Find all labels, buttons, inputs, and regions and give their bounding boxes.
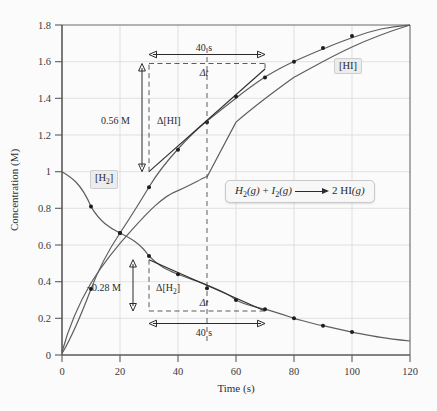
- series-label-hi-text: [HI]: [339, 60, 357, 71]
- y-tick-label: 1.4: [38, 93, 52, 104]
- annotation-hi-delta-time-symbol: Δt: [199, 67, 209, 78]
- annotation-hi-delta-label: Δ[HI]: [157, 115, 181, 126]
- series-label-h2: [H2]: [90, 170, 118, 189]
- series-label-hi: [HI]: [334, 58, 362, 74]
- annotation-h2-delta-time-symbol: Δt: [199, 297, 209, 308]
- series-points-HI: [89, 34, 354, 291]
- reaction-equation-box: H2(g) + I2(g)2 HI(g): [225, 180, 375, 203]
- annotation-h2-delta-label: Δ[H2]: [156, 282, 180, 296]
- y-tick-label: 0.8: [38, 203, 51, 214]
- chart-canvas: 1.8 1.6 1.4 1.2 1 0.8 0.6 0.4 0.2 0 0 20…: [0, 0, 437, 411]
- x-tick-label: 60: [231, 366, 242, 377]
- y-tick-marks: [55, 25, 62, 355]
- eq-plus: +: [263, 184, 269, 196]
- y-tick-label: 1.2: [38, 130, 51, 141]
- y-tick-label: 1: [46, 166, 51, 177]
- y-tick-labels: 1.8 1.6 1.4 1.2 1 0.8 0.6 0.4 0.2 0: [38, 20, 52, 361]
- x-tick-label: 100: [344, 366, 360, 377]
- chart-figure: 1.8 1.6 1.4 1.2 1 0.8 0.6 0.4 0.2 0 0 20…: [0, 0, 437, 411]
- series-points-H2: [89, 205, 354, 335]
- annotation-hi-delta-conc: 0.56 M: [101, 115, 130, 126]
- y-tick-label: 0.4: [38, 276, 52, 287]
- y-tick-label: 1.6: [38, 56, 51, 67]
- eq-reactant1-state: (g): [247, 184, 260, 196]
- x-axis-title: Time (s): [217, 382, 255, 395]
- eq-product: 2 HI: [332, 184, 352, 196]
- x-tick-marks: [62, 355, 410, 362]
- x-tick-label: 120: [402, 366, 418, 377]
- x-tick-labels: 0 20 40 60 80 100 120: [59, 366, 418, 377]
- y-tick-label: 0.2: [38, 313, 51, 324]
- annotation-h2-delta-conc: −0.28 M: [86, 282, 121, 293]
- eq-product-state: (g): [352, 184, 365, 196]
- x-tick-label: 0: [59, 366, 64, 377]
- reaction-arrow-icon: [295, 188, 329, 195]
- y-tick-label: 0.6: [38, 240, 51, 251]
- h2-delta-conc-arrow: [130, 260, 137, 311]
- y-tick-label: 1.8: [38, 20, 51, 31]
- annotation-hi-delta-time-value: 40 s: [196, 42, 213, 53]
- y-tick-label: 0: [46, 350, 51, 361]
- eq-reactant1: H: [235, 184, 243, 196]
- x-tick-label: 40: [173, 366, 184, 377]
- series-label-h2-prefix: [H: [95, 172, 106, 183]
- x-tick-label: 20: [115, 366, 126, 377]
- eq-reactant2-state: (g): [279, 184, 292, 196]
- y-axis-title: Concentration (M): [8, 149, 21, 232]
- series-label-h2-suffix: ]: [110, 172, 114, 183]
- annotation-h2-delta-time-value: 40 s: [196, 327, 213, 338]
- x-tick-label: 80: [289, 366, 300, 377]
- hi-delta-conc-arrow: [139, 64, 146, 172]
